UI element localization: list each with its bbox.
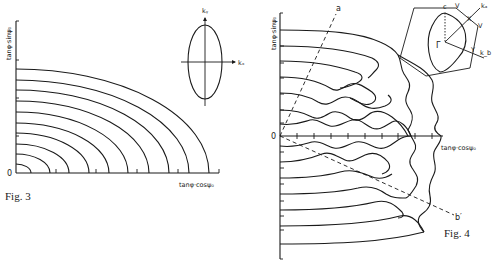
fig4: a b′ 0 tanφ·cosψ₀ tanφ·sinψ₀ Fig. 4 c V … [270, 2, 491, 259]
fig4-y-axis-label: tanφ·sinψ₀ [270, 16, 278, 50]
inset-label-gamma: Γ [436, 41, 441, 50]
fig3-x-ticks [56, 169, 219, 173]
fig4-upper-curves [280, 30, 411, 136]
inset-label-ka: kₐ [481, 2, 488, 10]
fig4-x-axis-label: tanφ·cosψ₀ [441, 144, 476, 152]
fig3: 0 tanφ·cosψ₀ tanφ·sinψ₀ Fig. 3 kᵧ kₓ [5, 7, 245, 202]
fig4-line-a-label: a [336, 4, 341, 13]
fig4-line-b-label: b′ [455, 213, 462, 222]
fig3-y-axis-label: tanφ·sinψ₀ [5, 26, 13, 60]
inset-label-c: c [443, 3, 447, 11]
inset-label-v1: V [455, 2, 460, 10]
fig4-origin-label: 0 [271, 132, 276, 141]
fig3-origin-label: 0 [7, 169, 12, 178]
fig3-x-axis-label: tanφ·cosψ₀ [179, 181, 214, 189]
inset-label-x: X [467, 15, 472, 23]
inset-label-kb: k_b [480, 49, 491, 57]
fig4-outer-waves [398, 55, 441, 232]
inset-label-v2: V [478, 22, 483, 30]
ky-label: kᵧ [202, 7, 209, 15]
kb-axis [445, 42, 484, 58]
fig4-dashed-line-a [280, 14, 336, 136]
fig4-dashed-line-b [280, 136, 454, 215]
fig4-caption: Fig. 4 [444, 227, 470, 239]
fig3-curves [16, 69, 209, 173]
fig3-inset: kᵧ kₓ [181, 7, 245, 106]
kx-label: kₓ [238, 59, 245, 67]
figure-canvas: 0 tanφ·cosψ₀ tanφ·sinψ₀ Fig. 3 kᵧ kₓ [0, 0, 494, 266]
fig4-lower-curves [280, 136, 424, 244]
fig3-caption: Fig. 3 [5, 190, 31, 202]
fig4-inset: c V X V kₐ Γ Y k_b [400, 2, 491, 76]
inset-label-y: Y [470, 46, 475, 54]
